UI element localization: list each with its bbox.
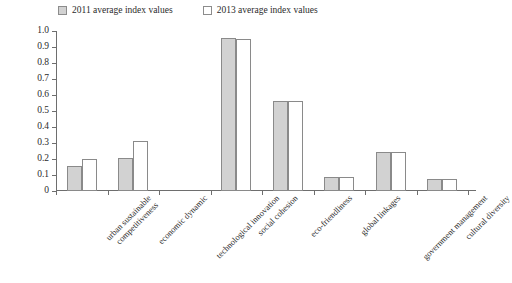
y-tick-label: 0.5 — [37, 106, 49, 116]
legend-swatch-icon-2013 — [203, 6, 212, 15]
bar-group — [314, 31, 366, 191]
y-tick-label: 0.1 — [37, 170, 49, 180]
bar — [376, 152, 391, 191]
x-category-label-line: eco-friendliness — [308, 193, 354, 239]
bar — [236, 39, 251, 191]
bar-group — [211, 31, 263, 191]
y-tick-label: 0.7 — [37, 74, 49, 84]
bar — [427, 179, 442, 191]
x-category-label-line: global linkages — [359, 193, 403, 237]
bar-group — [56, 31, 108, 191]
bar — [391, 152, 406, 191]
y-tick-label: 0.2 — [37, 154, 49, 164]
y-tick-label: 0.3 — [37, 138, 49, 148]
x-category-label: eco-friendliness — [308, 193, 354, 239]
legend-entry-2011: 2011 average index values — [58, 6, 173, 16]
y-tick-label: 0.9 — [37, 42, 49, 52]
bar — [442, 179, 457, 191]
y-tick-label: 0.8 — [37, 58, 49, 68]
bar — [288, 101, 303, 191]
y-tick-label: 0 — [44, 186, 49, 196]
x-tick-mark — [468, 191, 469, 195]
x-category-label-line: economic dynamic — [156, 193, 209, 246]
bar — [133, 141, 148, 191]
plot-area: 00.10.20.30.40.50.60.70.80.91.0 — [56, 31, 468, 191]
y-tick-label: 0.4 — [37, 122, 49, 132]
x-category-label: economic dynamic — [156, 193, 209, 246]
bar — [118, 158, 133, 191]
bar-group — [159, 31, 211, 191]
bar-group — [417, 31, 469, 191]
bar — [82, 159, 97, 191]
legend-label-2013: 2013 average index values — [217, 6, 318, 16]
bar — [273, 101, 288, 191]
bar-group — [262, 31, 314, 191]
legend-label-2011: 2011 average index values — [72, 6, 173, 16]
y-tick-label: 0.6 — [37, 90, 49, 100]
bar-group — [108, 31, 160, 191]
bar — [67, 166, 82, 191]
x-category-label: urban sustainablecompetitiveness — [103, 193, 160, 250]
bar — [324, 177, 339, 191]
x-axis-category-labels: urban sustainablecompetitivenesseconomic… — [56, 193, 468, 283]
chart-legend: 2011 average index values 2013 average i… — [58, 6, 318, 16]
bar-group — [365, 31, 417, 191]
bar — [221, 38, 236, 191]
legend-swatch-icon-2011 — [58, 6, 67, 15]
y-tick-label: 1.0 — [37, 26, 49, 36]
bar — [339, 177, 354, 191]
legend-entry-2013: 2013 average index values — [203, 6, 318, 16]
x-category-label: global linkages — [359, 193, 403, 237]
